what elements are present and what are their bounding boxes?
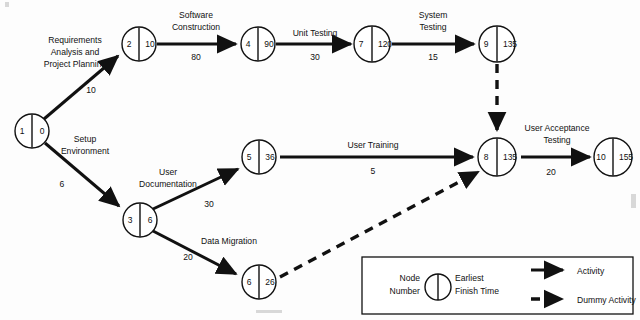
activity-duration: 20 (183, 252, 193, 262)
activity-label-line1: User Acceptance (525, 123, 590, 133)
activity-duration: 10 (86, 85, 96, 95)
activity-duration: 20 (546, 167, 556, 177)
node-2[interactable]: 2 10 (122, 27, 156, 61)
activity-label-line2: Testing (419, 22, 446, 32)
node-number: 6 (247, 277, 252, 287)
legend-node-symbol: Node Number Earliest Finish Time (389, 273, 499, 300)
activity-label-line3: Project Planning (44, 59, 107, 69)
activity-label-line1: User (159, 167, 177, 177)
node-number: 10 (596, 152, 606, 162)
activity-label-line1: Software (179, 10, 213, 20)
activity-duration: 5 (371, 166, 376, 176)
node-number: 9 (484, 39, 489, 49)
legend-activity-label: Activity (577, 266, 605, 276)
activity-duration: 80 (191, 52, 201, 62)
node-3[interactable]: 3 6 (123, 203, 157, 237)
activity-label-line1: User Training (347, 140, 398, 150)
activity-duration: 15 (428, 52, 438, 62)
legend-dummy-activity-label: Dummy Activity (577, 295, 636, 305)
activity-software-construction[interactable]: Software Construction 80 (157, 10, 236, 62)
activity-label-line1: Requirements (48, 35, 102, 45)
node-4[interactable]: 4 90 (241, 27, 275, 61)
activity-unit-testing[interactable]: Unit Testing 30 (276, 28, 351, 62)
activity-label-line2: Environment (61, 146, 110, 156)
network-diagram-canvas: Requirements Analysis and Project Planni… (0, 0, 640, 320)
activity-user-acceptance-testing[interactable]: User Acceptance Testing 20 (521, 123, 590, 177)
legend: Node Number Earliest Finish Time Activit… (362, 257, 636, 314)
scan-speck (256, 310, 282, 313)
node-5[interactable]: 5 36 (242, 140, 276, 174)
node-number: 4 (246, 39, 251, 49)
node-1[interactable]: 1 0 (15, 114, 49, 148)
node-7[interactable]: 7 120 (354, 26, 392, 62)
node-earliest-finish-time: 155 (619, 152, 633, 162)
activity-requirements-analysis-and-project-planning[interactable]: Requirements Analysis and Project Planni… (44, 35, 118, 119)
activity-label-line1: Setup (74, 134, 97, 144)
node-number: 8 (484, 152, 489, 162)
node-earliest-finish-time: 26 (265, 277, 275, 287)
activity-label-line1: Data Migration (201, 236, 257, 246)
node-earliest-finish-time: 0 (40, 126, 45, 136)
activity-label-line1: Unit Testing (293, 28, 338, 38)
activity-duration: 30 (204, 199, 214, 209)
legend-eft-label-line2: Finish Time (455, 286, 499, 296)
node-earliest-finish-time: 120 (378, 39, 392, 49)
node-number: 5 (247, 152, 252, 162)
scan-speck (5, 2, 9, 7)
activity-setup-environment[interactable]: Setup Environment 6 (45, 134, 119, 206)
node-number: 3 (128, 215, 133, 225)
legend-node-label-line1: Node (399, 273, 420, 283)
node-10[interactable]: 10 155 (594, 138, 633, 176)
node-earliest-finish-time: 90 (264, 39, 274, 49)
activity-user-documentation[interactable]: User Documentation 30 (139, 167, 238, 209)
activity-label-line1: System (419, 10, 448, 20)
activity-label-line2: Construction (172, 22, 220, 32)
node-number: 2 (127, 39, 132, 49)
legend-eft-label-line1: Earliest (455, 273, 484, 283)
activity-system-testing[interactable]: System Testing 15 (392, 10, 474, 62)
activity-label-line2: Documentation (139, 179, 197, 189)
activity-label-line2: Analysis and (51, 47, 100, 57)
node-earliest-finish-time: 135 (503, 39, 517, 49)
scan-speck (631, 194, 636, 208)
node-number: 7 (359, 39, 364, 49)
node-number: 1 (20, 126, 25, 136)
node-earliest-finish-time: 10 (145, 39, 155, 49)
node-earliest-finish-time: 135 (503, 152, 517, 162)
activity-user-training[interactable]: User Training 5 (280, 140, 473, 176)
node-earliest-finish-time: 6 (148, 215, 153, 225)
activity-duration: 30 (310, 52, 320, 62)
node-earliest-finish-time: 36 (265, 152, 275, 162)
node-9[interactable]: 9 135 (479, 26, 517, 62)
activity-duration: 6 (60, 179, 65, 189)
node-8[interactable]: 8 135 (478, 138, 517, 176)
network-diagram-svg: Requirements Analysis and Project Planni… (0, 0, 640, 320)
legend-node-label-line2: Number (389, 286, 420, 296)
activity-label-line2: Testing (543, 135, 570, 145)
node-6[interactable]: 6 26 (242, 265, 276, 299)
activity-data-migration[interactable]: Data Migration 20 (153, 231, 257, 274)
